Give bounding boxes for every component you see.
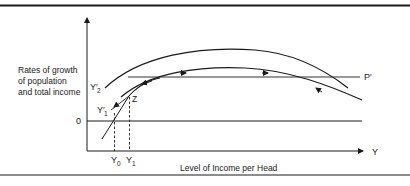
y-axis-label-line-3: and total income bbox=[18, 87, 81, 97]
y2-prime-curve bbox=[105, 49, 348, 88]
figure-diagram: Rates of growth of population and total … bbox=[0, 0, 410, 186]
y-axis-label-line-2: of population bbox=[18, 76, 67, 86]
y2-prime-subscript: 2 bbox=[97, 87, 101, 94]
income-path-line bbox=[102, 78, 160, 139]
z-label: Z bbox=[132, 94, 137, 104]
x-axis-label: Level of Income per Head bbox=[180, 163, 278, 173]
x-axis-symbol: Y bbox=[372, 147, 378, 157]
y1-prime-subscript: 1 bbox=[104, 110, 108, 117]
y-axis-label-line-1: Rates of growth bbox=[18, 65, 78, 75]
p-prime-label: P′ bbox=[364, 72, 372, 82]
zero-label: 0 bbox=[76, 116, 81, 126]
y1-subscript: 1 bbox=[132, 160, 136, 167]
direction-arrows bbox=[114, 73, 322, 107]
arrow-icon bbox=[316, 88, 322, 92]
y0-subscript: 0 bbox=[117, 160, 121, 167]
